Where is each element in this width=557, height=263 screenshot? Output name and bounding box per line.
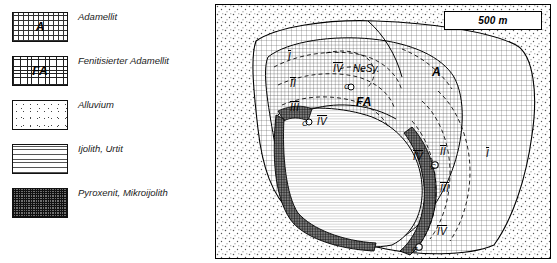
legend-label-ijolith-urtit: Ijolith, Urtit [78,143,196,154]
figure-root: A Adamellit FA Fenitisierter Adamellit A… [0,0,557,263]
map-label-unit-IV-right: IV [437,226,447,237]
map-label-unit-I-right: I [486,148,489,159]
legend-swatch-pyroxenit-mikroijolith [12,188,68,218]
map-label-unit-A: A [432,65,441,79]
map-label-unit-IV-mid: IV [413,151,423,162]
legend-item-fenitisierter-adamellit: FA Fenitisierter Adamellit [8,52,198,96]
geological-map: 500 m IIVNeSy.AIICFAIIICIVIIIIVCIIIIVC [215,4,551,259]
legend-item-pyroxenit-mikroijolith: Pyroxenit, Mikroijolith [8,184,198,228]
legend-label-adamellit: Adamellit [78,11,196,22]
map-label-unit-I-top: I [288,51,291,62]
scale-bar-label: 500 m [478,15,507,26]
legend-swatch-alluvium [12,100,68,130]
legend-item-alluvium: Alluvium [8,96,198,140]
map-legend: A Adamellit FA Fenitisierter Adamellit A… [8,8,198,248]
map-label-c-left: C [302,119,308,128]
map-canvas [216,5,550,258]
map-label-unit-IV-top: IV [333,63,343,74]
legend-swatch-adamellit: A [12,12,68,42]
map-label-unit-III-right: III [440,183,449,194]
map-label-nesy: NeSy. [353,63,380,74]
legend-swatch-label-fenitisierter-adamellit: FA [13,57,67,85]
legend-swatch-fenitisierter-adamellit: FA [12,56,68,86]
map-label-unit-FA: FA [356,95,371,109]
map-label-unit-IV-left: IV [317,116,327,127]
legend-label-alluvium: Alluvium [78,99,196,110]
legend-item-ijolith-urtit: Ijolith, Urtit [8,140,198,184]
map-label-unit-II-right: II [440,146,446,157]
legend-swatch-ijolith-urtit [12,144,68,174]
map-label-c-bottom: C [412,245,418,254]
legend-item-adamellit: A Adamellit [8,8,198,52]
legend-label-fenitisierter-adamellit: Fenitisierter Adamellit [78,55,196,66]
map-label-c-mid-right: C [430,162,436,171]
legend-swatch-label-adamellit: A [13,13,67,41]
map-label-unit-III-left: III [290,102,299,113]
map-label-c-center-top: C [344,82,350,91]
scale-bar: 500 m [444,11,542,30]
legend-label-pyroxenit-mikroijolith: Pyroxenit, Mikroijolith [78,187,196,198]
map-label-unit-II-left: II [290,78,296,89]
